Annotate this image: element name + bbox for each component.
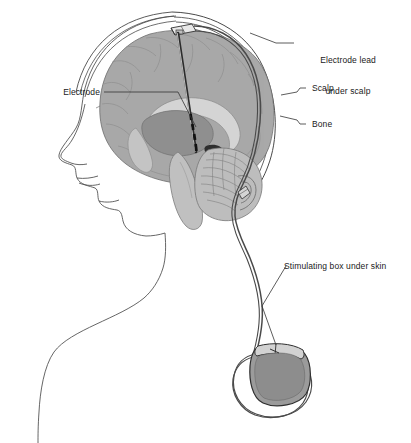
label-scalp: Scalp (312, 83, 334, 93)
label-electrode-lead: Electrode lead under scalp (296, 34, 400, 117)
label-stimulating-box: Stimulating box under skin (284, 261, 386, 271)
leader-electrode-lead (250, 33, 294, 43)
label-bone: Bone (312, 119, 332, 129)
label-electrode-lead-line1: Electrode lead (296, 55, 400, 65)
implanted-pulse-generator (233, 344, 312, 418)
leader-bone (280, 116, 306, 124)
diagram-canvas: Electrode lead under scalp Scalp Bone El… (0, 0, 411, 443)
leader-stimulating-box (262, 266, 286, 345)
label-electrode: Electrode (10, 87, 100, 97)
